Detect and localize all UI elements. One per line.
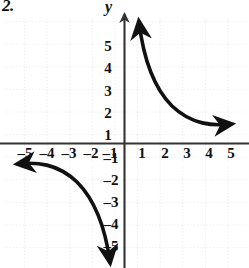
y-tick-neg-4: –4 [100, 217, 122, 232]
x-tick-neg-4: –4 [36, 146, 58, 161]
x-tick-1: 1 [134, 146, 150, 161]
x-tick-neg-5: –5 [14, 146, 36, 161]
y-tick-1: 1 [100, 128, 116, 143]
x-tick-2: 2 [157, 146, 173, 161]
y-tick-neg-2: –2 [100, 173, 122, 188]
y-tick-neg-5: –5 [100, 239, 122, 254]
x-tick-neg-1: –1 [99, 146, 121, 161]
x-tick-4: 4 [201, 146, 217, 161]
graph-figure: 2. y 5 4 3 2 1 –1 –2 [0, 0, 249, 268]
y-tick-3: 3 [100, 84, 116, 99]
x-tick-5: 5 [223, 146, 239, 161]
y-tick-2: 2 [100, 106, 116, 121]
y-tick-5: 5 [100, 39, 116, 54]
x-tick-neg-3: –3 [58, 146, 80, 161]
y-axis-label: y [105, 0, 112, 16]
y-tick-4: 4 [100, 61, 116, 76]
y-tick-neg-3: –3 [100, 195, 122, 210]
x-tick-3: 3 [179, 146, 195, 161]
coordinate-plane [0, 0, 249, 268]
